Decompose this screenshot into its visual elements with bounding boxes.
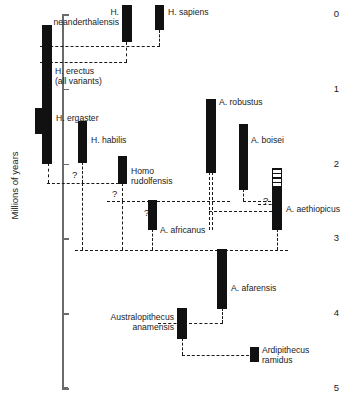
label-h-neanderthalensis: H. neanderthalensis bbox=[45, 7, 119, 27]
bar-homo-rudolfensis bbox=[118, 156, 127, 184]
connector-rudolfensis-stem bbox=[122, 183, 123, 201]
connector-neanderthal-stem bbox=[126, 42, 127, 62]
y-tick-label-0: 0 bbox=[290, 9, 342, 19]
y-tick-label-3: 3 bbox=[290, 233, 342, 243]
connector-aethiopicus-stem bbox=[277, 229, 278, 250]
label-a-afarensis: A. afarensis bbox=[231, 283, 276, 293]
bar-a-boisei bbox=[239, 124, 248, 190]
label-australopithecus-anamensis: Australopithecus anamensis bbox=[101, 312, 174, 332]
connector-ramidus-horizontal bbox=[182, 355, 254, 356]
label-h-erectus: H. erectus (all variants) bbox=[55, 66, 102, 86]
y-tick-label-2: 2 bbox=[290, 159, 342, 169]
connector-sapiens-horizontal bbox=[40, 46, 160, 47]
connector-robustus-stem bbox=[209, 172, 210, 230]
y-axis-title: Millions of years bbox=[9, 126, 20, 246]
y-tick-label-1: 1 bbox=[290, 84, 342, 94]
bar-h-neanderthalensis bbox=[122, 5, 132, 42]
y-tick-2 bbox=[62, 164, 69, 166]
connector-afarensis-stem bbox=[222, 308, 223, 323]
connector-robustus-horizontal bbox=[209, 211, 277, 212]
connector-habilis-stem bbox=[82, 162, 83, 183]
label-h-ergaster: H. ergaster bbox=[56, 113, 99, 123]
connector-rudolfensis-deep-stem bbox=[122, 201, 123, 250]
connector-habilis-deep-stem bbox=[82, 183, 83, 250]
connector-anamensis-stem bbox=[182, 338, 183, 355]
bar-a-aethiopicus-uncertain-top bbox=[272, 168, 282, 188]
connector-basal-horizontal bbox=[75, 250, 288, 251]
bar-h-ergaster bbox=[42, 130, 52, 164]
label-a-aethiopicus: A. aethiopicus bbox=[286, 204, 340, 214]
uncertainty-marker-rudolfensis: ? bbox=[112, 189, 117, 199]
label-h-habilis: H. habilis bbox=[91, 135, 126, 145]
bar-australopithecus-anamensis bbox=[177, 308, 187, 339]
label-a-africanus: A. africanus bbox=[160, 225, 205, 235]
bar-a-afarensis bbox=[217, 249, 227, 309]
bar-h-habilis bbox=[78, 121, 87, 163]
bar-ardipithecus-ramidus bbox=[250, 347, 259, 362]
y-tick-label-4: 4 bbox=[290, 308, 342, 318]
label-h-sapiens: H. sapiens bbox=[168, 7, 209, 17]
hominid-phylogeny-chart: 0 1 2 3 4 5 Millions of years bbox=[0, 0, 342, 402]
uncertainty-marker-habilis: ? bbox=[72, 170, 77, 180]
label-ardipithecus-ramidus: Ardipithecus ramidus bbox=[262, 345, 309, 365]
y-tick-4 bbox=[62, 313, 69, 315]
connector-robustus-stem-2 bbox=[212, 172, 213, 230]
connector-habilis-horizontal bbox=[47, 183, 124, 184]
y-tick-3 bbox=[62, 238, 69, 240]
bar-a-aethiopicus bbox=[272, 188, 282, 230]
bar-h-sapiens bbox=[155, 5, 164, 30]
connector-neanderthal-horizontal bbox=[40, 62, 127, 63]
y-tick-label-5: 5 bbox=[290, 383, 342, 393]
bar-a-robustus bbox=[206, 99, 216, 173]
connector-ergaster-stem bbox=[48, 163, 49, 183]
label-a-robustus: A. robustus bbox=[219, 97, 262, 107]
connector-africanus-stem bbox=[152, 229, 153, 250]
connector-boisei-stem bbox=[243, 189, 244, 201]
uncertainty-marker-aethiopicus: ? bbox=[263, 196, 268, 206]
y-tick-5 bbox=[62, 388, 69, 390]
connector-sapiens-stem bbox=[159, 30, 160, 46]
label-homo-rudolfensis: Homo rudolfensis bbox=[131, 166, 173, 186]
label-a-boisei: A. boisei bbox=[251, 135, 284, 145]
y-tick-1 bbox=[62, 89, 69, 91]
uncertainty-marker-africanus: ? bbox=[144, 208, 149, 218]
